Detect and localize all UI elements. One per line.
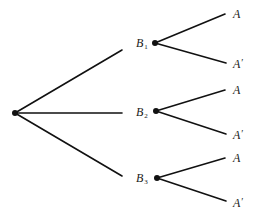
edge-root-b3 [15, 113, 122, 176]
label-b1-a-prime: A′ [233, 58, 244, 70]
label-b3-subscript: 3 [144, 178, 148, 186]
label-b2: B2 [136, 106, 148, 120]
prime-mark: ′ [241, 57, 243, 68]
edge-b2-a [156, 90, 225, 111]
label-b2-a-prime: A′ [233, 129, 244, 141]
label-b1-a: A [233, 8, 240, 20]
node-b1 [152, 40, 158, 46]
label-b1-subscript: 1 [144, 43, 148, 51]
prime-mark: ′ [241, 128, 243, 139]
tree-diagram [0, 0, 267, 219]
edge-b3-a [157, 158, 225, 178]
label-b3-a-prime: A′ [233, 197, 244, 209]
label-b2-a-prime-letter: A [233, 128, 240, 142]
prime-mark: ′ [241, 196, 243, 207]
label-b1-letter: B [136, 36, 143, 50]
root-node [12, 110, 18, 116]
node-b3 [154, 175, 160, 181]
edge-b2-a-prime [156, 111, 226, 134]
label-b1: B1 [136, 37, 148, 51]
label-b3-a-prime-letter: A [233, 196, 240, 210]
label-b3: B3 [136, 172, 148, 186]
node-b2 [153, 108, 159, 114]
label-b3-a: A [233, 152, 240, 164]
label-b2-subscript: 2 [144, 112, 148, 120]
label-b3-letter: B [136, 171, 143, 185]
label-b2-a-letter: A [233, 83, 240, 97]
edge-root-b1 [15, 50, 122, 113]
label-b2-a: A [233, 84, 240, 96]
label-b1-a-letter: A [233, 7, 240, 21]
edge-b1-a-prime [155, 43, 226, 63]
label-b1-a-prime-letter: A [233, 57, 240, 71]
edge-b1-a [155, 14, 225, 43]
label-b3-a-letter: A [233, 151, 240, 165]
edge-b3-a-prime [157, 178, 226, 201]
label-b2-letter: B [136, 105, 143, 119]
